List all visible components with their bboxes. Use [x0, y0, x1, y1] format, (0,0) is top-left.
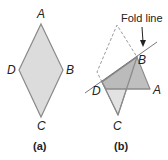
rhombus-fold-diagram: A B C D (a) Fold line B A D C (b): [0, 0, 168, 160]
caption-b: (b): [114, 141, 128, 152]
fold-line-label: Fold line: [121, 13, 163, 24]
caption-a: (a): [33, 141, 46, 152]
fold-arrow-shaft: [142, 27, 143, 42]
label-a-vertex-a: A: [37, 8, 45, 20]
label-a-vertex-c: C: [37, 120, 46, 132]
fold-arrow-head: [140, 40, 146, 47]
rhombus-abcd: [19, 24, 63, 117]
label-b-vertex-b: B: [138, 54, 146, 66]
label-a-vertex-b: B: [66, 64, 74, 76]
label-b-vertex-a: A: [153, 84, 161, 96]
diagram-canvas: [0, 0, 168, 160]
label-b-vertex-d: D: [92, 85, 101, 97]
label-a-vertex-d: D: [7, 64, 16, 76]
label-b-vertex-c: C: [113, 120, 122, 132]
